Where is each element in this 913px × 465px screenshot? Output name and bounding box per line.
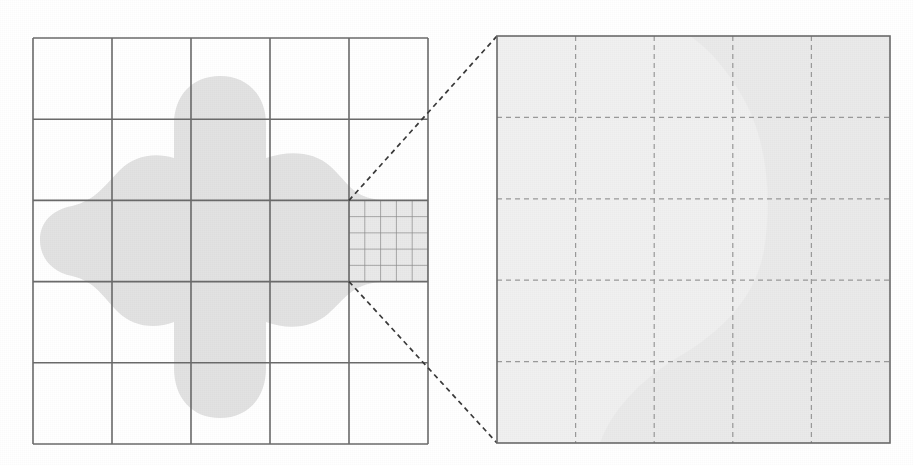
refined-cell	[349, 200, 428, 281]
figure-root	[0, 0, 913, 465]
magnifier-connector-top	[349, 36, 497, 200]
refined-cell-background	[349, 200, 428, 281]
grid-refinement-figure	[0, 0, 913, 465]
magnified-cell-panel	[497, 36, 890, 443]
coarse-grid-panel	[33, 38, 428, 444]
